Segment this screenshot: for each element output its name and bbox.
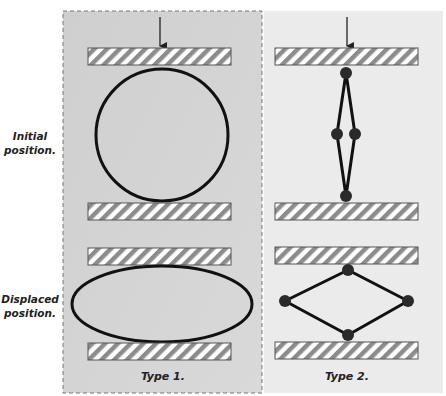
panel-type2-label: Type 2. xyxy=(325,370,369,383)
joint-top-displaced xyxy=(342,264,354,276)
plate-top-displaced-type1 xyxy=(88,248,231,265)
joint-right-initial xyxy=(349,128,361,140)
plate-bottom-initial-type2 xyxy=(275,203,418,220)
joint-bottom-displaced xyxy=(342,329,354,341)
panel-type2: Type 2. xyxy=(264,11,443,393)
joint-right-displaced xyxy=(402,295,414,307)
plate-bottom-displaced-type2 xyxy=(275,342,418,359)
plate-top-displaced-type2 xyxy=(275,247,418,264)
joint-top-initial xyxy=(340,67,352,79)
diagram-canvas: Type 1. Type 2. xyxy=(0,0,446,396)
joint-bottom-initial xyxy=(340,190,352,202)
plate-bottom-displaced-type1 xyxy=(88,343,231,360)
plate-top-initial-type1 xyxy=(88,48,231,65)
plate-bottom-initial-type1 xyxy=(88,203,231,220)
joint-left-initial xyxy=(331,128,343,140)
panel-type1: Type 1. xyxy=(63,11,262,393)
joint-left-displaced xyxy=(279,295,291,307)
plate-top-initial-type2 xyxy=(275,48,418,65)
panel-type1-label: Type 1. xyxy=(141,370,185,383)
